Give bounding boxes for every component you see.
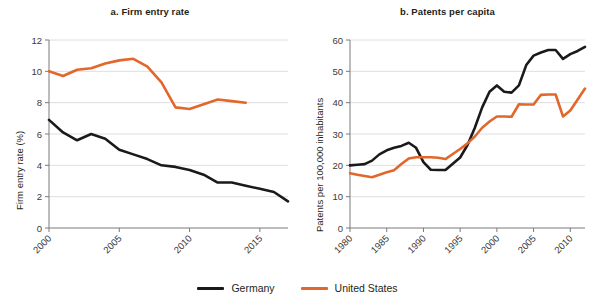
series-line-united-states (350, 89, 585, 178)
panel-b-plot: 0102030405060198019851990199520002005201… (300, 0, 595, 270)
series-line-germany (350, 47, 585, 170)
y-tick-label: 50 (332, 66, 343, 77)
y-tick-label: 0 (37, 223, 42, 234)
chart-panel-b: b. Patents per capita Patents per 100,00… (300, 0, 595, 270)
panel-a-plot: 0246810122000200520102015 (0, 0, 300, 270)
series-line-germany (49, 120, 288, 201)
x-tick-label: 1980 (332, 233, 355, 256)
chart-legend: Germany United States (0, 272, 595, 304)
y-tick-label: 20 (332, 160, 343, 171)
y-tick-label: 8 (37, 97, 42, 108)
y-tick-label: 10 (332, 191, 343, 202)
legend-swatch-united-states (301, 287, 328, 290)
y-tick-label: 2 (37, 191, 42, 202)
x-tick-label: 2015 (242, 233, 265, 256)
x-tick-label: 2000 (479, 233, 502, 256)
y-tick-label: 30 (332, 129, 343, 140)
chart-panel-a: a. Firm entry rate Firm entry rate (%) 0… (0, 0, 300, 270)
series-line-united-states (49, 59, 246, 109)
x-tick-label: 1990 (405, 233, 428, 256)
x-tick-label: 1985 (368, 233, 391, 256)
y-tick-label: 6 (37, 129, 42, 140)
figure-container: a. Firm entry rate Firm entry rate (%) 0… (0, 0, 595, 304)
legend-label-germany: Germany (231, 282, 274, 294)
x-tick-label: 2000 (31, 233, 54, 256)
y-tick-label: 0 (338, 223, 343, 234)
y-tick-label: 12 (31, 35, 42, 46)
legend-label-united-states: United States (335, 282, 398, 294)
y-tick-label: 40 (332, 97, 343, 108)
x-tick-label: 2010 (171, 233, 194, 256)
y-tick-label: 4 (37, 160, 42, 171)
x-tick-label: 2010 (552, 233, 575, 256)
x-tick-label: 2005 (101, 233, 124, 256)
legend-item-germany: Germany (197, 282, 274, 294)
legend-swatch-germany (197, 287, 224, 290)
y-tick-label: 10 (31, 66, 42, 77)
x-tick-label: 2005 (515, 233, 538, 256)
x-tick-label: 1995 (442, 233, 465, 256)
legend-item-united-states: United States (301, 282, 398, 294)
y-tick-label: 60 (332, 35, 343, 46)
